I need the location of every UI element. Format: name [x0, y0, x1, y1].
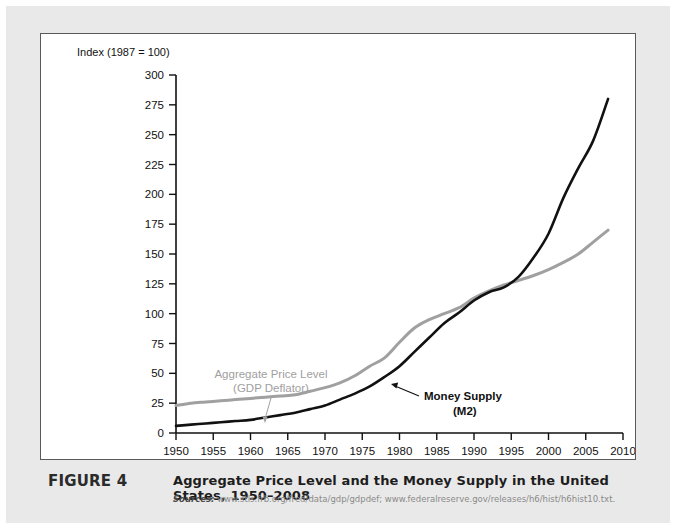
sources-urls: www.stls.frb.org/fred/data/gdp/gdpdef; w… — [217, 494, 615, 504]
x-tick-label: 1955 — [200, 445, 226, 457]
x-tick-label: 1975 — [349, 445, 375, 457]
y-tick-label: 200 — [145, 188, 164, 200]
x-tick-label: 2005 — [573, 445, 599, 457]
y-tick-label: 25 — [151, 397, 164, 409]
y-tick-label: 75 — [151, 338, 164, 350]
figure-caption: FIGURE 4 Aggregate Price Level and the M… — [40, 468, 636, 514]
x-tick-label: 1990 — [461, 445, 487, 457]
annotation-arrow-head — [391, 383, 398, 389]
y-tick-label: 275 — [145, 99, 164, 111]
annotation-label-line1: Aggregate Price Level — [214, 368, 327, 380]
annotation-label-line2: (M2) — [453, 405, 477, 417]
annotation-arrow-head — [262, 417, 267, 423]
y-tick-label: 0 — [158, 427, 164, 439]
x-tick-label: 1985 — [424, 445, 450, 457]
figure-page: Index (1987 = 100) 025507510012515017520… — [0, 0, 676, 529]
y-tick-label: 50 — [151, 367, 164, 379]
y-tick-label: 150 — [145, 248, 164, 260]
y-tick-label: 100 — [145, 308, 164, 320]
y-tick-label: 250 — [145, 129, 164, 141]
x-tick-label: 1980 — [387, 445, 413, 457]
x-axis-ticks: 1950195519601965197019751980198519901995… — [163, 433, 635, 457]
x-tick-label: 1965 — [275, 445, 301, 457]
y-tick-label: 225 — [145, 159, 164, 171]
chart-frame: Index (1987 = 100) 025507510012515017520… — [40, 33, 636, 460]
y-axis-ticks: 0255075100125150175200225250275300 — [145, 69, 176, 439]
y-tick-label: 125 — [145, 278, 164, 290]
annotation-money-supply: Money Supply (M2) — [391, 383, 503, 417]
annotation-leader-line — [395, 386, 419, 396]
sources-label: Sources: — [173, 494, 214, 504]
x-tick-label: 1960 — [238, 445, 264, 457]
axis-note-label: Index (1987 = 100) — [77, 46, 170, 58]
figure-sources: Sources: www.stls.frb.org/fred/data/gdp/… — [173, 494, 615, 504]
x-tick-label: 1995 — [498, 445, 524, 457]
x-tick-label: 1950 — [163, 445, 189, 457]
y-tick-label: 300 — [145, 69, 164, 81]
x-tick-label: 1970 — [312, 445, 338, 457]
x-tick-label: 2010 — [610, 445, 635, 457]
annotation-label-line2: (GDP Deflator) — [233, 382, 309, 394]
line-chart: Index (1987 = 100) 025507510012515017520… — [41, 34, 635, 459]
y-tick-label: 175 — [145, 218, 164, 230]
x-tick-label: 2000 — [536, 445, 562, 457]
annotation-label-line1: Money Supply — [424, 390, 503, 402]
figure-number-label: FIGURE 4 — [48, 472, 127, 490]
